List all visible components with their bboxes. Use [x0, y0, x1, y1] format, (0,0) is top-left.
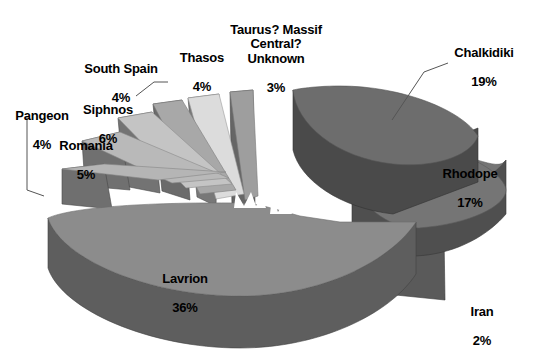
slice-label-iran-name: Iran — [450, 305, 514, 320]
slice-label-unknown-name: Taurus? Massif Central? Unknown — [210, 23, 342, 67]
slice-label-rhodope-value: 17% — [420, 196, 520, 211]
pie-chart: Chalkidiki 19% Rhodope 17% Iran 2% Lavri… — [0, 0, 536, 363]
slice-label-siphnos-value: 6% — [68, 132, 148, 147]
slice-label-chalkidiki-name: Chalkidiki — [434, 46, 534, 61]
slice-label-unknown-value: 3% — [210, 81, 342, 96]
slice-label-chalkidiki: Chalkidiki 19% — [434, 31, 534, 104]
slice-label-lavrion-value: 36% — [130, 301, 240, 316]
slice-label-rhodope: Rhodope 17% — [420, 152, 520, 225]
slice-label-southspain-value: 4% — [66, 91, 176, 106]
slice-label-rhodope-name: Rhodope — [420, 167, 520, 182]
slice-label-southspain: South Spain 4% — [66, 47, 176, 120]
slice-label-chalkidiki-value: 19% — [434, 75, 534, 90]
slice-label-iran-value: 2% — [450, 334, 514, 349]
slice-label-romania-value: 5% — [44, 168, 128, 183]
slice-label-lavrion: Lavrion 36% — [130, 257, 240, 330]
slice-label-iran: Iran 2% — [450, 290, 514, 363]
slice-label-unknown: Taurus? Massif Central? Unknown 3% — [210, 8, 342, 110]
slice-label-southspain-name: South Spain — [66, 62, 176, 77]
center-notch-2 — [270, 196, 292, 214]
slice-label-lavrion-name: Lavrion — [130, 272, 240, 287]
